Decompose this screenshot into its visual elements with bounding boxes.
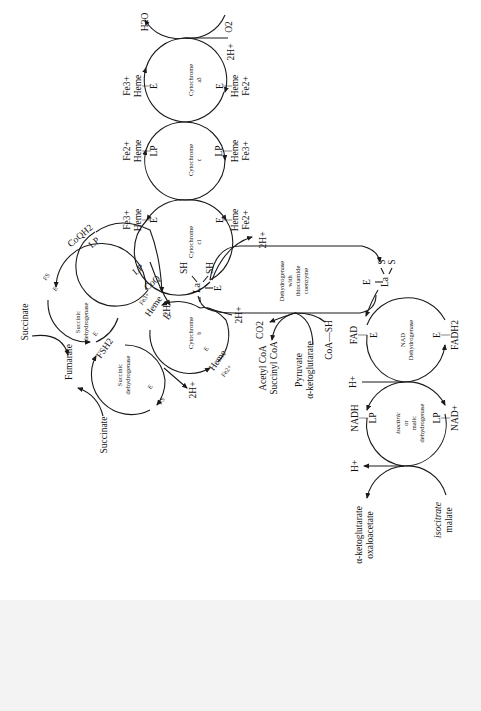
fadh2-label: FADH2 (450, 320, 460, 350)
cytochrome-c-cycle: Cytochrome c Fe2+ Heme | LP LP | Heme Fe… (122, 122, 251, 200)
heme-label: Heme (230, 140, 240, 163)
h2o-label: H2O (140, 13, 150, 32)
enzyme-name: Cytochrome (187, 144, 194, 176)
bond: | (440, 417, 450, 419)
bond: | (357, 334, 367, 336)
cytochrome-c1-cycle: Cytochrome c1 Fe3+ Heme | E E | Heme Fe2… (122, 200, 268, 295)
o2-label: O2 (224, 21, 234, 33)
nad-plus-label: NAD+ (450, 405, 460, 431)
succinate-label: Succinate (20, 304, 30, 341)
enzyme-name: or (402, 419, 409, 425)
bond: | (358, 417, 368, 419)
lp-label: LP (87, 235, 102, 250)
box-title: coenzyme (302, 268, 309, 294)
fs-label: FS (41, 271, 51, 281)
box-title: Dehydrogenase (278, 261, 285, 302)
2h-plus-label: 2H+ (226, 44, 236, 61)
fe2-label: Fe2+ (241, 210, 251, 230)
s-label: S (377, 259, 387, 264)
lp-label: LP (149, 145, 159, 156)
malate-label: malate (444, 507, 454, 532)
fe2-label: Fe2+ (219, 363, 233, 378)
heme-label: Heme (230, 209, 240, 232)
isocitric-malic-dehydrogenase-cycle: isocitric or malic dehydrogenase NADH | … (350, 382, 460, 564)
enzyme-subscript: c (196, 158, 202, 161)
fe3-label: Fe3+ (122, 210, 132, 230)
nad-dehydrogenase-cycle: NAD Dehydrogenase FAD | E E | FADH2 H+ (348, 290, 460, 388)
enzyme-name: malic (410, 416, 417, 431)
h-plus-label: H+ (348, 376, 358, 388)
box-title: with (286, 274, 293, 286)
fe2-label: Fe2+ (241, 76, 251, 96)
coa-sh-label: CoA—SH (324, 320, 334, 360)
succinyl-coa-label: Succinyl CoA (269, 341, 279, 395)
oxaloacetate-label: oxaloacetate (365, 511, 375, 558)
e-label: E (213, 285, 223, 291)
lp-label: LP (368, 412, 378, 423)
enzyme-subscript: a3 (196, 77, 202, 82)
enzyme-name: NAD (399, 333, 406, 347)
e-label: E (51, 285, 59, 292)
co2-label: CO2 (255, 321, 265, 339)
2h-plus-label: 2H+ (234, 307, 244, 324)
fe3-label: Fe3+ (122, 76, 132, 96)
coq-label: CoQ (142, 273, 162, 292)
enzyme-name: dehydrogenase (82, 302, 89, 341)
enzyme-name: Cytochrome (187, 226, 194, 258)
enzyme-subscript: b (196, 331, 202, 334)
e-label: E (149, 217, 159, 223)
lipoamide-dehydrogenase-box: Dehydrogenase with thioctamide coenzyme … (179, 246, 397, 399)
enzyme-name: isocitric (394, 412, 401, 433)
enzyme-name: dehydrogenase (418, 403, 425, 442)
enzyme-name: Dehydrogenase (407, 320, 414, 361)
pyruvate-label: Pyruvate (294, 353, 304, 387)
sh-label: SH (205, 262, 215, 274)
isocitrate-label: isocitrate (433, 502, 443, 538)
h-plus-label: H+ (350, 460, 360, 472)
bond: | (440, 334, 450, 336)
2h-plus-label: 2H+ (188, 382, 198, 399)
cytochrome-a3-cycle: Cytochrome a3 H2O O2 2H+ Fe3+ Heme | E E… (122, 13, 251, 122)
fsh2-label: FSH2 (94, 336, 115, 360)
fumarate-label: Fumarate (64, 344, 74, 380)
page-shading (0, 600, 481, 711)
cytochrome-b-cycle: Cytochrome b Fe3+ Heme E E Heme Fe2+ 2H+ (137, 291, 244, 378)
alpha-ketoglutarate-label: α-ketoglutarate (305, 341, 315, 399)
alpha-ketoglutarate-label: α-ketoglutarate (354, 506, 364, 564)
e-label: E (146, 383, 154, 390)
enzyme-name: dehydrogenase (124, 355, 131, 394)
enzyme-name: Succinic (74, 311, 81, 333)
fe2-label: Fe2+ (122, 141, 132, 161)
enzyme-name: Cytochrome (187, 64, 194, 96)
sh-label: SH (179, 262, 189, 274)
e-label: E (369, 332, 379, 338)
s-label: S (387, 259, 397, 264)
heme-label: Heme (230, 75, 240, 98)
succinic-dehydrogenase-lower-cycle: 2H+ Succinic dehydrogenase E FS Succinat… (78, 345, 198, 453)
e-label: E (91, 330, 99, 337)
e-label: E (202, 345, 210, 352)
fe3-label: Fe3+ (241, 141, 251, 161)
e-label: E (149, 83, 159, 89)
la-label: La (192, 282, 202, 293)
succinate-label: Succinate (99, 417, 109, 454)
enzyme-subscript: c1 (196, 239, 202, 244)
electron-transport-diagram: Cytochrome a3 H2O O2 2H+ Fe3+ Heme | E E… (0, 0, 481, 711)
lp-label: LP (131, 262, 146, 277)
acetyl-coa-label: Acetyl CoA (258, 345, 268, 391)
enzyme-name: Succinic (116, 364, 123, 386)
enzyme-name: Cytochrome (187, 317, 194, 349)
box-title: thioctamide (294, 266, 301, 297)
e-label: E (362, 279, 372, 285)
